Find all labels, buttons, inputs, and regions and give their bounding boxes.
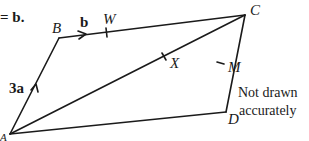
note-line-2: accurately: [238, 102, 298, 120]
tick-W: [106, 28, 107, 37]
point-label-W: W: [103, 12, 116, 27]
not-drawn-accurately-note: Not drawn accurately: [238, 84, 298, 120]
vertex-label-B: B: [52, 21, 61, 36]
vector-label-b: b: [80, 15, 88, 30]
side-DA: [10, 112, 226, 134]
vertex-label-A: A: [0, 130, 7, 141]
header-fragment: = b.: [0, 10, 24, 25]
point-label-X: X: [170, 56, 179, 71]
point-label-M: M: [228, 60, 241, 75]
tick-M: [217, 62, 224, 64]
vector-label-3a: 3a: [9, 81, 24, 96]
vertex-label-C: C: [250, 3, 260, 18]
note-line-1: Not drawn: [238, 84, 298, 102]
diagonal-AC: [10, 15, 245, 134]
